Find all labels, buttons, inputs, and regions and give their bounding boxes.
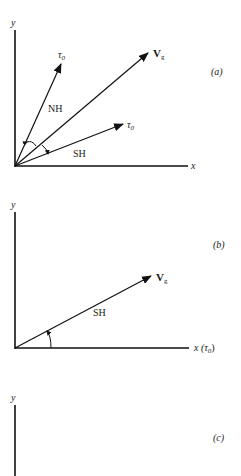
panel-a: y x τ0 Vg τ0 NH SH (a)	[10, 17, 223, 171]
diagram-canvas: y x τ0 Vg τ0 NH SH (a) y x (τ0) Vg SH (b…	[0, 0, 241, 476]
tau0-nh-label: τ0	[58, 49, 66, 62]
sh-region-label: SH	[73, 148, 86, 159]
vg-label: Vg	[153, 47, 165, 61]
vg-label: Vg	[156, 271, 168, 285]
panel-b-label: (b)	[213, 239, 225, 251]
y-axis-label: y	[10, 199, 16, 210]
x-axis-label: x	[190, 160, 196, 171]
panel-b: y x (τ0) Vg SH (b)	[10, 199, 225, 355]
panel-c-label: (c)	[213, 432, 225, 444]
panel-c: y (c)	[10, 392, 225, 476]
vg-vector	[15, 276, 151, 348]
tau0-sh-label: τ0	[127, 119, 135, 132]
x-axis-label: x (τ0)	[193, 342, 215, 355]
sh-region-label: SH	[93, 307, 106, 318]
nh-region-label: NH	[48, 103, 62, 114]
panel-a-label: (a)	[211, 66, 223, 78]
angle-arc	[47, 331, 51, 348]
sh-angle-arc	[42, 145, 48, 154]
y-axis-label: y	[10, 17, 16, 28]
nh-angle-arc	[27, 142, 36, 147]
y-axis-label: y	[10, 392, 16, 403]
